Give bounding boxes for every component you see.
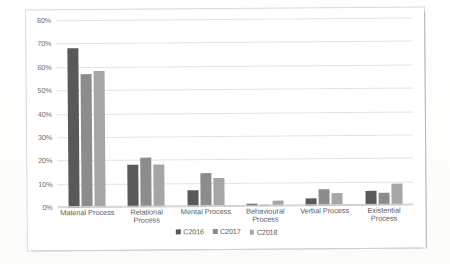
legend-item-C2016: C2016 bbox=[176, 227, 204, 236]
bar-groups bbox=[56, 18, 413, 208]
y-axis-tick-label: 30% bbox=[38, 133, 52, 142]
bar-C2017-0 bbox=[81, 74, 93, 207]
bar-C2016-5 bbox=[365, 191, 376, 205]
legend-label: C2016 bbox=[183, 227, 204, 236]
y-axis-tick-label: 60% bbox=[37, 63, 51, 72]
legend-label: C2017 bbox=[220, 227, 241, 236]
y-axis-tick-label: 10% bbox=[38, 179, 52, 188]
legend-item-C2018: C2018 bbox=[250, 228, 278, 237]
y-axis-tick-label: 20% bbox=[38, 156, 52, 165]
y-axis-tick-label: 50% bbox=[38, 86, 52, 95]
y-axis-tick-label: 40% bbox=[38, 109, 52, 118]
bar-C2017-1 bbox=[141, 158, 152, 207]
chart-legend: C2016C2017C2018 bbox=[28, 225, 426, 237]
scanned-page-background: 0%10%20%30%40%50%60%70%80% Material Proc… bbox=[0, 0, 450, 264]
chart-container: 0%10%20%30%40%50%60%70%80% Material Proc… bbox=[25, 6, 427, 251]
bar-group bbox=[115, 19, 176, 206]
legend-item-C2017: C2017 bbox=[213, 227, 241, 236]
bar-C2018-1 bbox=[154, 164, 165, 206]
bar-C2016-2 bbox=[187, 190, 198, 206]
plot-area: 0%10%20%30%40%50%60%70%80% bbox=[56, 18, 413, 208]
legend-swatch-icon bbox=[176, 230, 181, 235]
legend-swatch-icon bbox=[250, 230, 255, 235]
y-axis-tick-label: 70% bbox=[37, 39, 51, 48]
legend-swatch-icon bbox=[213, 229, 218, 234]
bar-group bbox=[56, 20, 117, 207]
frame-edge-bottom bbox=[32, 247, 422, 251]
bar-group bbox=[353, 18, 414, 205]
bar-C2017-2 bbox=[200, 173, 211, 206]
bar-C2018-2 bbox=[213, 178, 224, 206]
frame-edge-right bbox=[424, 11, 427, 247]
bar-C2016-0 bbox=[68, 48, 80, 207]
y-axis-tick-label: 0% bbox=[42, 203, 52, 212]
legend-label: C2018 bbox=[257, 228, 278, 237]
bar-group bbox=[175, 19, 236, 206]
bar-group bbox=[293, 18, 354, 205]
bar-C2018-5 bbox=[391, 184, 402, 205]
bar-C2016-1 bbox=[128, 165, 139, 207]
bar-C2018-0 bbox=[94, 71, 106, 207]
y-axis-tick-label: 80% bbox=[37, 16, 51, 25]
bar-C2017-4 bbox=[319, 189, 330, 205]
bar-group bbox=[234, 18, 295, 205]
